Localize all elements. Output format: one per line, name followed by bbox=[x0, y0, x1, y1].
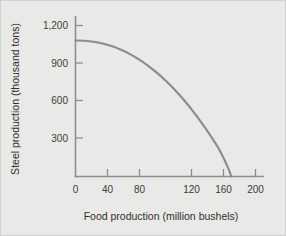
y-axis-title: Steel production (thousand tons) bbox=[9, 23, 21, 175]
x-tick-label-40: 40 bbox=[102, 184, 114, 195]
x-tick-label-200: 200 bbox=[247, 184, 264, 195]
y-tick-label-1200: 1,200 bbox=[43, 20, 68, 31]
ppf-chart-svg: 1,200 900 600 300 0 40 80 120 160 200 Fo… bbox=[1, 1, 286, 236]
x-tick-label-120: 120 bbox=[183, 184, 200, 195]
chart-figure: 1,200 900 600 300 0 40 80 120 160 200 Fo… bbox=[0, 0, 286, 236]
x-tick-label-80: 80 bbox=[134, 184, 146, 195]
x-tick-label-160: 160 bbox=[215, 184, 232, 195]
ppf-curve bbox=[76, 40, 232, 176]
y-tick-label-900: 900 bbox=[51, 58, 68, 69]
y-tick-label-300: 300 bbox=[51, 133, 68, 144]
y-axis-ticks bbox=[76, 26, 83, 139]
x-axis-tick-labels: 0 40 80 120 160 200 bbox=[73, 184, 265, 195]
x-axis-title: Food production (million bushels) bbox=[84, 210, 239, 222]
x-axis-ticks bbox=[108, 169, 256, 176]
chart-axes bbox=[76, 17, 264, 177]
x-tick-label-0: 0 bbox=[73, 184, 79, 195]
y-axis-tick-labels: 1,200 900 600 300 bbox=[43, 20, 68, 144]
y-tick-label-600: 600 bbox=[51, 95, 68, 106]
